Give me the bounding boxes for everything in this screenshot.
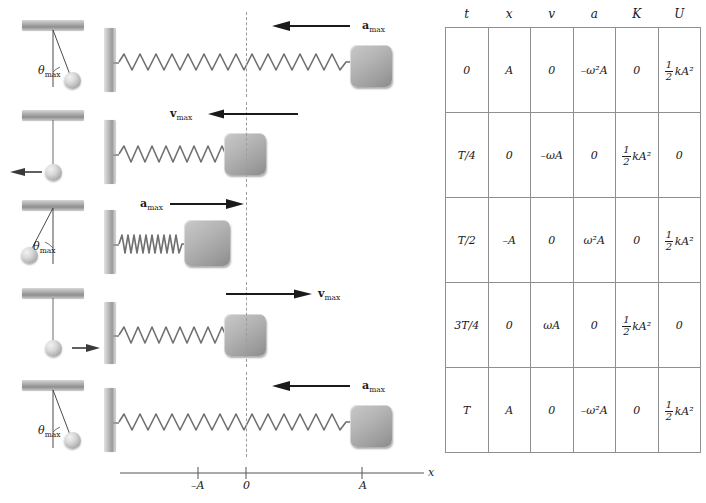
x-tick-minus-A: –A — [191, 479, 204, 492]
cell-v: ωA — [531, 283, 574, 368]
pendulum-panel-t0: θmax — [0, 12, 100, 97]
values-table: t x v a K U 0A0–ω²A012kA²T/40–ωA012kA²0T… — [445, 4, 701, 453]
pendulum-panel-T: θmax — [0, 372, 100, 457]
cell-U: 12kA² — [658, 198, 701, 283]
cell-K: 12kA² — [616, 113, 659, 198]
shm-values-table: t x v a K U 0A0–ω²A012kA²T/40–ωA012kA²0T… — [445, 4, 701, 470]
x-axis-label: x — [428, 466, 434, 479]
cell-K: 0 — [616, 28, 659, 113]
velocity-subscript: max — [176, 113, 192, 122]
accel-subscript: max — [147, 203, 163, 212]
x-axis-line — [0, 455, 440, 503]
shm-row-t34: vmax — [0, 282, 440, 367]
table-row: 3T/40ωA012kA²0 — [446, 283, 701, 368]
cell-t: 3T/4 — [446, 283, 489, 368]
spring-panel-t34: vmax — [100, 282, 440, 367]
velocity-arrow-left-t4 — [100, 102, 440, 187]
col-header-v: v — [531, 4, 574, 28]
table-header-row: t x v a K U — [446, 4, 701, 28]
theta-symbol: θ — [38, 64, 45, 77]
pendulum-panel-t4 — [0, 102, 100, 187]
pendulum-bob — [64, 432, 81, 449]
theta-subscript: max — [45, 430, 61, 439]
pendulum-angle-label-T: θmax — [38, 424, 60, 439]
cell-x: A — [488, 368, 531, 453]
pendulum-angle-label-t2: θmax — [33, 240, 55, 255]
table-row: T/40–ωA012kA²0 — [446, 113, 701, 198]
cell-a: 0 — [573, 113, 616, 198]
cell-K: 0 — [616, 198, 659, 283]
col-header-t: t — [446, 4, 489, 28]
cell-K: 12kA² — [616, 283, 659, 368]
pendulum-drawing-T — [0, 372, 100, 457]
x-tick-zero: 0 — [243, 479, 250, 492]
table-row: 0A0–ω²A012kA² — [446, 28, 701, 113]
cell-v: 0 — [531, 198, 574, 283]
cell-U: 12kA² — [658, 368, 701, 453]
cell-U: 0 — [658, 113, 701, 198]
pendulum-bob — [64, 72, 81, 89]
col-header-K: K — [616, 4, 659, 28]
cell-t: 0 — [446, 28, 489, 113]
theta-symbol: θ — [33, 240, 40, 253]
shm-row-t4: vmax — [0, 102, 440, 187]
velocity-label-t34: vmax — [318, 287, 340, 302]
x-tick-A: A — [359, 479, 367, 492]
pendulum-panel-t34 — [0, 282, 100, 367]
acceleration-label-T: amax — [362, 379, 385, 394]
spring-panel-T: amax — [100, 372, 440, 457]
cell-U: 12kA² — [658, 28, 701, 113]
pendulum-bob — [45, 340, 62, 357]
spring-panel-t0: amax — [100, 12, 440, 97]
cell-a: –ω²A — [573, 28, 616, 113]
acceleration-arrow-left-t0 — [100, 12, 440, 97]
shm-row-t2: θmax amax — [0, 192, 440, 277]
acceleration-label-t0: amax — [362, 19, 385, 34]
table-body: 0A0–ω²A012kA²T/40–ωA012kA²0T/2–A0ω²A012k… — [446, 28, 701, 453]
pendulum-drawing-t0 — [0, 12, 100, 97]
cell-a: –ω²A — [573, 368, 616, 453]
col-header-a: a — [573, 4, 616, 28]
cell-a: 0 — [573, 283, 616, 368]
cell-x: 0 — [488, 283, 531, 368]
accel-subscript: max — [369, 385, 385, 394]
cell-t: T — [446, 368, 489, 453]
cell-U: 0 — [658, 283, 701, 368]
theta-subscript: max — [45, 70, 61, 79]
cell-K: 0 — [616, 368, 659, 453]
velocity-arrow-right-t34 — [100, 282, 440, 367]
accel-subscript: max — [369, 25, 385, 34]
velocity-subscript: max — [324, 293, 340, 302]
shm-row-t0: θmax amax — [0, 12, 440, 97]
shm-figure: θmax amax — [0, 0, 440, 503]
pendulum-panel-t2: θmax — [0, 192, 100, 277]
acceleration-label-t2: amax — [140, 197, 163, 212]
velocity-label-t4: vmax — [170, 107, 192, 122]
cell-v: 0 — [531, 28, 574, 113]
spring-panel-t4: vmax — [100, 102, 440, 187]
table-row: T/2–A0ω²A012kA² — [446, 198, 701, 283]
theta-symbol: θ — [38, 424, 45, 437]
spring-panel-t2: amax — [100, 192, 440, 277]
cell-t: T/4 — [446, 113, 489, 198]
cell-a: ω²A — [573, 198, 616, 283]
cell-x: A — [488, 28, 531, 113]
theta-subscript: max — [40, 246, 56, 255]
pendulum-drawing-t2 — [0, 192, 100, 277]
pendulum-angle-label-t0: θmax — [38, 64, 60, 79]
cell-v: 0 — [531, 368, 574, 453]
shm-row-T: θmax amax — [0, 372, 440, 457]
cell-x: 0 — [488, 113, 531, 198]
x-axis: –A 0 A x — [0, 455, 440, 503]
col-header-x: x — [488, 4, 531, 28]
cell-v: –ωA — [531, 113, 574, 198]
cell-x: –A — [488, 198, 531, 283]
table-row: TA0–ω²A012kA² — [446, 368, 701, 453]
col-header-U: U — [658, 4, 701, 28]
cell-t: T/2 — [446, 198, 489, 283]
acceleration-arrow-left-T — [100, 372, 440, 457]
pendulum-bob — [45, 164, 62, 181]
